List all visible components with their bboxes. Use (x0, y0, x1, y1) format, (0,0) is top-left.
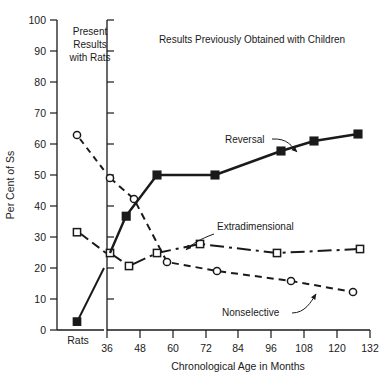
annotation-nonselective-label: Nonselective (222, 307, 280, 318)
y-tick-label-40: 40 (34, 200, 46, 212)
annotation-nonselective: Nonselective (222, 294, 316, 318)
y-tick-label-60: 60 (34, 138, 46, 150)
x-tick-label-36: 36 (101, 342, 113, 354)
rats-panel-title-line-1: Present (73, 26, 108, 37)
y-tick-label-70: 70 (34, 107, 46, 119)
rats-point-reversal (73, 318, 80, 325)
series-reversal-point (153, 171, 161, 179)
series-reversal-point (122, 212, 130, 220)
y-tick-label-80: 80 (34, 76, 46, 88)
chart-plot-area: 100 90 80 70 60 50 40 30 20 10 0 Per Cen… (0, 0, 386, 387)
x-tick-label-48: 48 (134, 342, 146, 354)
series-extradimensional-point (273, 249, 280, 256)
y-tick-label-90: 90 (34, 45, 46, 57)
series-reversal-point (277, 147, 285, 155)
x-tick-label-72: 72 (200, 342, 212, 354)
x-tick-label-60: 60 (167, 342, 179, 354)
chart-figure: 100 90 80 70 60 50 40 30 20 10 0 Per Cen… (0, 0, 386, 387)
rats-connector-reversal (79, 268, 104, 318)
x-tick-label-108: 108 (295, 342, 313, 354)
y-tick-label-100: 100 (28, 14, 46, 26)
rats-panel: Present Results with Rats Rats (57, 26, 111, 346)
annotation-nonselective-leader (292, 294, 316, 313)
series-extradimensional (106, 240, 363, 269)
y-tick-label-10: 10 (34, 293, 46, 305)
y-axis-title: Per Cent of Ss (4, 151, 16, 219)
annotation-reversal-label: Reversal (225, 134, 264, 145)
series-reversal-point (310, 137, 318, 145)
series-nonselective-point (349, 288, 356, 295)
series-extradimensional-line (110, 244, 360, 266)
series-nonselective-point (213, 267, 220, 274)
rats-panel-title-line-2: Results (73, 39, 106, 50)
rats-panel-title-line-3: with Rats (68, 52, 110, 63)
y-tick-label-0: 0 (40, 324, 46, 336)
series-extradimensional-point (356, 245, 363, 252)
y-tick-label-20: 20 (34, 262, 46, 274)
rats-point-extradimensional (73, 229, 80, 236)
y-axis: 100 90 80 70 60 50 40 30 20 10 0 Per Cen… (4, 14, 57, 336)
x-axis: 36 48 60 72 84 96 108 120 132 Chronologi… (101, 330, 379, 372)
x-tick-label-120: 120 (328, 342, 346, 354)
rats-connector-nonselective (80, 139, 106, 173)
children-panel-title: Results Previously Obtained with Childre… (159, 34, 345, 45)
series-reversal-line (110, 134, 358, 253)
annotation-extradimensional-label: Extradimensional (217, 221, 294, 232)
series-nonselective-point (287, 277, 294, 284)
series-nonselective-point (163, 258, 170, 265)
y-tick-label-50: 50 (34, 169, 46, 181)
x-axis-title: Chronological Age in Months (171, 360, 305, 372)
series-nonselective-line (110, 178, 353, 292)
series-extradimensional-point (153, 249, 160, 256)
series-extradimensional-point (125, 262, 132, 269)
x-tick-label-84: 84 (232, 342, 244, 354)
series-reversal-point (211, 171, 219, 179)
x-tick-label-96: 96 (265, 342, 277, 354)
rats-connector-extradimensional (81, 234, 106, 253)
y-tick-label-30: 30 (34, 231, 46, 243)
series-reversal (110, 130, 362, 253)
rats-category-label: Rats (67, 334, 89, 346)
series-reversal-point (354, 130, 362, 138)
x-tick-label-132: 132 (361, 342, 379, 354)
children-panel: Results Previously Obtained with Childre… (101, 20, 379, 372)
rats-point-nonselective (73, 131, 80, 138)
series-nonselective-point (106, 174, 113, 181)
